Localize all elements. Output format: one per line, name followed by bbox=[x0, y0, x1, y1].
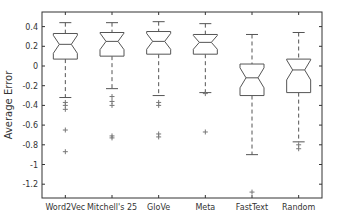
box-fasttext bbox=[240, 34, 264, 194]
outlier-marker bbox=[156, 103, 161, 108]
outlier-marker bbox=[156, 134, 161, 139]
y-tick-label: -1 bbox=[30, 161, 38, 170]
box-meta bbox=[193, 24, 217, 135]
x-tick-label: Random bbox=[282, 203, 315, 212]
x-tick-label: FastText bbox=[236, 203, 268, 212]
chart-canvas: 0.40.20-0.2-0.4-0.6-0.8-1-1.2 Word2VecMi… bbox=[0, 0, 337, 223]
boxplot-chart: 0.40.20-0.2-0.4-0.6-0.8-1-1.2 Word2VecMi… bbox=[0, 0, 337, 223]
box-body bbox=[53, 33, 77, 59]
outlier-marker bbox=[203, 129, 208, 134]
box-body bbox=[100, 33, 124, 57]
box-body bbox=[147, 32, 171, 55]
boxes bbox=[53, 22, 310, 195]
y-tick-label: 0.4 bbox=[25, 23, 38, 32]
box-body bbox=[193, 34, 217, 54]
box-glove bbox=[147, 22, 171, 140]
outlier-marker bbox=[63, 149, 68, 154]
outlier-marker bbox=[250, 190, 255, 195]
y-tick-label: -1.2 bbox=[22, 180, 38, 189]
y-tick-label: -0.2 bbox=[22, 82, 38, 91]
outlier-marker bbox=[296, 146, 301, 151]
outlier-marker bbox=[110, 94, 115, 99]
box-mitchell-s-25 bbox=[100, 23, 124, 141]
box-body bbox=[287, 59, 311, 92]
x-axis: Word2VecMitchell's 25GloVeMetaFastTextRa… bbox=[45, 12, 315, 212]
x-tick-label: Meta bbox=[195, 203, 215, 212]
box-word2vec bbox=[53, 23, 77, 155]
outlier-marker bbox=[63, 128, 68, 133]
y-tick-label: -0.6 bbox=[22, 121, 38, 130]
y-tick-label: 0.2 bbox=[25, 42, 38, 51]
x-tick-label: Mitchell's 25 bbox=[87, 203, 137, 212]
y-axis-label: Average Error bbox=[3, 70, 14, 140]
outlier-marker bbox=[110, 103, 115, 108]
y-tick-label: -0.4 bbox=[22, 101, 38, 110]
outlier-marker bbox=[63, 107, 68, 112]
y-tick-label: 0 bbox=[33, 62, 38, 71]
outlier-marker bbox=[203, 91, 208, 96]
box-body bbox=[240, 64, 264, 96]
x-tick-label: Word2Vec bbox=[45, 203, 85, 212]
box-random bbox=[287, 33, 311, 152]
x-tick-label: GloVe bbox=[147, 203, 170, 212]
y-tick-label: -0.8 bbox=[22, 141, 38, 150]
plot-area bbox=[42, 12, 322, 198]
